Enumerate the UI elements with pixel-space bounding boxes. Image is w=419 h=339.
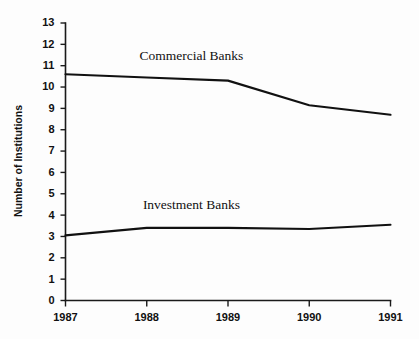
- series-line-commercial-banks: [66, 74, 391, 115]
- y-tick-labels: 012345678910111213: [42, 16, 55, 306]
- y-tick-label-9: 9: [48, 102, 54, 114]
- y-tick-label-10: 10: [42, 80, 54, 92]
- y-tick-label-7: 7: [48, 144, 54, 156]
- y-tick-label-8: 8: [48, 123, 54, 135]
- y-tick-label-11: 11: [43, 59, 55, 71]
- y-tick-label-12: 12: [42, 38, 54, 50]
- x-tick-label-1989: 1989: [216, 311, 240, 323]
- series-label-investment-banks: Investment Banks: [143, 197, 240, 212]
- chart-page: 012345678910111213 Number of Institution…: [0, 0, 419, 339]
- x-axis-group: 19871988198919901991: [53, 301, 402, 323]
- y-tick-label-4: 4: [48, 209, 55, 221]
- y-tick-label-1: 1: [48, 273, 54, 285]
- y-tick-label-0: 0: [48, 294, 54, 306]
- x-tick-marks: [66, 301, 391, 307]
- x-tick-label-1988: 1988: [135, 311, 159, 323]
- x-tick-labels: 19871988198919901991: [53, 311, 402, 323]
- y-tick-label-6: 6: [48, 166, 54, 178]
- y-axis-title: Number of Institutions: [12, 105, 24, 217]
- line-chart: 012345678910111213 Number of Institution…: [0, 0, 419, 339]
- y-tick-label-5: 5: [48, 187, 54, 199]
- x-tick-label-1990: 1990: [297, 311, 321, 323]
- y-tick-label-2: 2: [48, 251, 54, 263]
- y-axis-group: 012345678910111213 Number of Institution…: [12, 16, 66, 306]
- series-label-commercial-banks: Commercial Banks: [140, 48, 244, 63]
- y-tick-label-3: 3: [48, 230, 54, 242]
- x-tick-label-1987: 1987: [53, 311, 77, 323]
- series-annotations: Commercial BanksInvestment Banks: [140, 48, 244, 211]
- series-line-investment-banks: [66, 225, 391, 236]
- y-tick-label-13: 13: [42, 16, 54, 28]
- x-tick-label-1991: 1991: [378, 311, 402, 323]
